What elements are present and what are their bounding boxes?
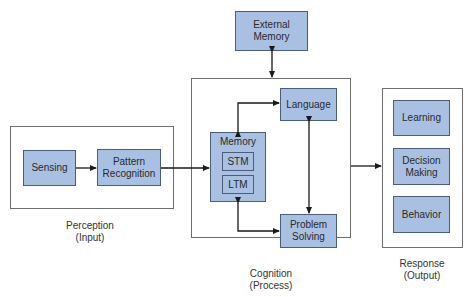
connector-arrows bbox=[0, 0, 472, 297]
arrow-memory-language bbox=[238, 103, 279, 131]
arrow-memory-problem bbox=[238, 203, 279, 231]
